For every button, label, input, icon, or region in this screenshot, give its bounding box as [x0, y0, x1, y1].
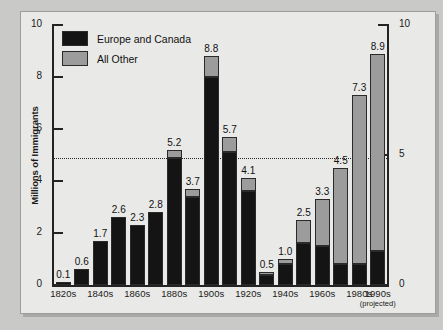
- chart-figure: Millions of Immigrants 02468100510 0.10.…: [0, 0, 443, 330]
- legend-swatch-icon-all-other: [62, 51, 88, 66]
- bar-segment-europe-and-canada: [74, 269, 89, 285]
- y-axis-tick-label-right: 10: [399, 19, 429, 29]
- bar-1960s: [315, 199, 330, 285]
- bar-segment-all-other: [259, 272, 274, 275]
- legend-label-all-other: All Other: [97, 53, 138, 65]
- bar-segment-all-other: [185, 189, 200, 197]
- bar-segment-europe-and-canada: [204, 77, 219, 285]
- y-axis-tick-label-left: 10: [12, 19, 42, 29]
- bar-segment-europe-and-canada: [333, 264, 348, 285]
- bar-1930s: [259, 272, 274, 285]
- bar-1880s: [167, 150, 182, 285]
- legend-swatch-icon-europe-and-canada: [62, 31, 88, 46]
- bar-segment-europe-and-canada: [56, 282, 71, 285]
- bar-segment-europe-and-canada: [130, 225, 145, 285]
- bar-segment-europe-and-canada: [111, 217, 126, 285]
- bar-1890s: [185, 189, 200, 285]
- bar-segment-europe-and-canada: [241, 191, 256, 285]
- y-axis-tick-label-right: 5: [399, 149, 429, 159]
- bar-1950s: [296, 220, 311, 285]
- y-axis-right-line: [387, 24, 389, 286]
- bar-segment-europe-and-canada: [148, 212, 163, 285]
- y-axis-title: Millions of Immigrants: [29, 86, 40, 226]
- x-axis-label-1990s: 1990s(projected): [348, 288, 408, 308]
- bar-1850s: [111, 217, 126, 285]
- y-axis-tick-label-left: 6: [12, 123, 42, 133]
- y-axis-tick-label-left: 8: [12, 71, 42, 81]
- bar-1820s: [56, 282, 71, 285]
- legend-item-europe-and-canada: Europe and Canada: [62, 30, 232, 47]
- bar-1940s: [278, 259, 293, 285]
- bar-segment-all-other: [333, 168, 348, 264]
- bar-segment-europe-and-canada: [370, 251, 385, 285]
- bar-segment-all-other: [315, 199, 330, 246]
- bar-segment-all-other: [296, 220, 311, 243]
- bar-segment-all-other: [222, 137, 237, 153]
- bar-segment-europe-and-canada: [296, 243, 311, 285]
- bar-1840s: [93, 241, 108, 285]
- bar-segment-all-other: [370, 54, 385, 252]
- bar-segment-all-other: [278, 259, 293, 264]
- x-axis-tick-labels: 1820s1840s1860s1880s1900s1920s1940s1960s…: [52, 288, 389, 318]
- bar-value-label-1910s: 5.7: [210, 124, 250, 135]
- y-axis-tick-label-left: 4: [12, 175, 42, 185]
- bar-segment-all-other: [241, 178, 256, 191]
- bar-segment-europe-and-canada: [315, 246, 330, 285]
- legend-item-all-other: All Other: [62, 50, 232, 67]
- bar-1860s: [130, 225, 145, 285]
- bar-value-label-1990s: 8.9: [358, 41, 398, 52]
- bar-segment-europe-and-canada: [352, 264, 367, 285]
- bar-1900s: [204, 56, 219, 285]
- bar-1830s: [74, 269, 89, 285]
- bar-value-label-1880s: 5.2: [154, 137, 194, 148]
- x-axis-line: [52, 285, 389, 287]
- bar-segment-europe-and-canada: [185, 197, 200, 285]
- chart-legend: Europe and Canada All Other: [62, 30, 232, 70]
- bar-segment-all-other: [352, 95, 367, 264]
- bar-segment-europe-and-canada: [93, 241, 108, 285]
- y-axis-tick-label-left: 2: [12, 227, 42, 237]
- bar-value-label-1920s: 4.1: [228, 165, 268, 176]
- bar-1970s: [333, 168, 348, 285]
- bar-1980s: [352, 95, 367, 285]
- bar-segment-europe-and-canada: [259, 275, 274, 285]
- bar-segment-all-other: [167, 150, 182, 158]
- bar-segment-europe-and-canada: [278, 264, 293, 285]
- page-backdrop: [0, 0, 443, 11]
- bar-1910s: [222, 137, 237, 285]
- x-axis-label-projected-note: (projected): [348, 299, 408, 308]
- bar-1870s: [148, 212, 163, 285]
- bar-1990s: [370, 54, 385, 285]
- legend-label-europe-and-canada: Europe and Canada: [97, 33, 191, 45]
